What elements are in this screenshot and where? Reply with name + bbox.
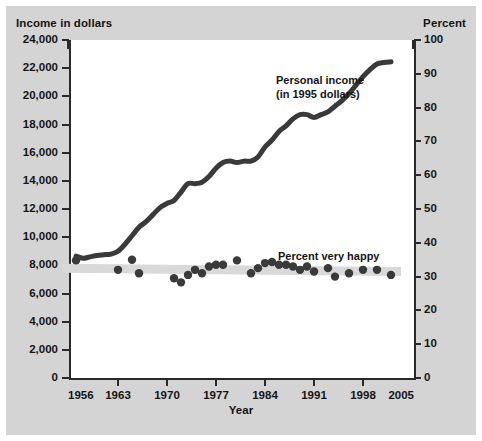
scatter-point xyxy=(170,274,178,282)
scatter-point xyxy=(205,262,213,270)
annotation-percent-very-happy: Percent very happy xyxy=(278,250,380,264)
scatter-point xyxy=(247,269,255,277)
scatter-point xyxy=(331,272,339,280)
scatter-point xyxy=(219,261,227,269)
scatter-point xyxy=(254,264,262,272)
scatter-point xyxy=(184,271,192,279)
data-layer xyxy=(0,0,482,441)
scatter-point xyxy=(233,256,241,264)
scatter-point xyxy=(114,266,122,274)
scatter-point xyxy=(128,256,136,264)
chart-figure: Income in dollars Percent Year 02,0004,0… xyxy=(0,0,482,441)
scatter-point xyxy=(72,256,80,264)
scatter-point xyxy=(198,269,206,277)
scatter-point xyxy=(310,267,318,275)
scatter-point xyxy=(345,269,353,277)
scatter-point xyxy=(387,271,395,279)
scatter-point xyxy=(359,266,367,274)
scatter-point xyxy=(373,266,381,274)
scatter-point xyxy=(135,269,143,277)
scatter-point xyxy=(324,264,332,272)
scatter-point xyxy=(177,278,185,286)
annotation-personal-income: Personal income (in 1995 dollars) xyxy=(276,74,364,102)
